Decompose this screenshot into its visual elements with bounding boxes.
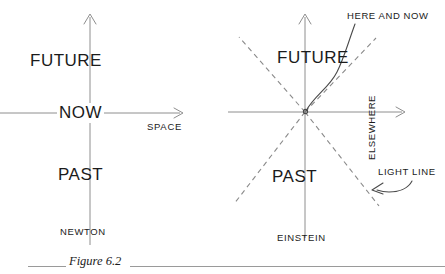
here-and-now-annotation: HERE AND NOW: [347, 10, 429, 21]
newton-space-axis-label: SPACE: [147, 121, 182, 132]
newton-future-label: FUTURE: [30, 51, 102, 71]
einstein-diagram-caption: EINSTEIN: [277, 232, 326, 243]
einstein-past-label: PAST: [272, 167, 317, 187]
figure-container: FUTURE NOW PAST SPACE NEWTON FUTURE PAST…: [0, 0, 445, 274]
newton-now-label: NOW: [57, 103, 104, 123]
einstein-future-label: FUTURE: [277, 48, 349, 68]
figure-caption: Figure 6.2: [69, 254, 121, 269]
light-line-lower-left: [234, 112, 305, 204]
einstein-elsewhere-label: ELSEWHERE: [366, 95, 377, 160]
caption-rule-right: [130, 266, 445, 267]
light-line-leader-arrowhead: [372, 183, 383, 194]
light-line-leader: [372, 181, 412, 194]
newton-past-label: PAST: [58, 165, 103, 185]
light-line-annotation: LIGHT LINE: [378, 166, 436, 177]
light-line-leader-line: [377, 181, 412, 192]
here-and-now-leader: [303, 24, 355, 114]
caption-rule-left: [28, 266, 66, 267]
newton-diagram-caption: NEWTON: [60, 226, 106, 237]
